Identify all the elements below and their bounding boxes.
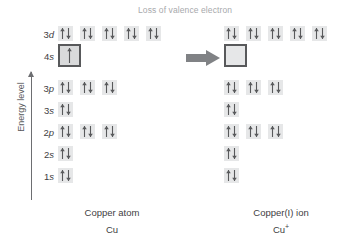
- row-label-subshell: p: [49, 127, 54, 138]
- orbital-set-left-2p: [58, 124, 117, 139]
- row-label-subshell: s: [49, 171, 54, 182]
- orbital-box-left-3d-4: [124, 26, 139, 41]
- orbital-box-left-3p-1: [58, 80, 73, 95]
- row-label-subshell: p: [49, 83, 54, 94]
- orbital-set-left-3d: [58, 26, 161, 41]
- caption-left-name: Copper atom: [85, 207, 140, 218]
- row-label-3d: 3d: [34, 29, 54, 40]
- caption-left-formula: Cu: [52, 220, 172, 237]
- orbital-box-right-3d-5: [312, 26, 327, 41]
- orbital-box-right-2s-1: [224, 146, 239, 161]
- row-label-1s: 1s: [34, 171, 54, 182]
- orbital-set-right-4s: [224, 48, 247, 67]
- orbital-box-left-2s-1: [58, 146, 73, 161]
- orbital-set-left-2s: [58, 146, 73, 161]
- orbital-set-right-3d: [224, 26, 327, 41]
- orbital-set-left-1s: [58, 168, 73, 183]
- orbital-set-right-3p: [224, 80, 283, 95]
- caption-right-formula: Cu+: [218, 220, 344, 237]
- orbital-box-left-2p-1: [58, 124, 73, 139]
- orbital-box-right-2p-2: [246, 124, 261, 139]
- orbital-box-left-3d-2: [80, 26, 95, 41]
- caption-right-name: Copper(I) ion: [253, 207, 308, 218]
- orbital-box-left-2p-3: [102, 124, 117, 139]
- caption-left-symbol: Cu: [106, 224, 118, 235]
- row-label-subshell: s: [49, 105, 54, 116]
- orbital-box-right-2p-3: [268, 124, 283, 139]
- orbital-box-left-3p-2: [80, 80, 95, 95]
- orbital-box-right-4s-1: [224, 44, 247, 67]
- row-label-4s: 4s: [34, 51, 54, 62]
- orbital-box-right-3p-3: [268, 80, 283, 95]
- row-label-subshell: s: [49, 149, 54, 160]
- caption-right-symbol: Cu: [273, 224, 285, 235]
- orbital-box-right-3d-3: [268, 26, 283, 41]
- orbital-box-right-1s-1: [224, 168, 239, 183]
- orbital-box-right-3d-4: [290, 26, 305, 41]
- row-label-3s: 3s: [34, 105, 54, 116]
- orbital-set-right-2p: [224, 124, 283, 139]
- orbital-set-left-4s: [58, 48, 81, 67]
- orbital-diagram-figure: Loss of valence electron Energy level 3d…: [0, 0, 361, 245]
- row-label-subshell: s: [49, 51, 54, 62]
- energy-axis-arrow-icon: [31, 72, 32, 200]
- orbital-box-right-3s-1: [224, 102, 239, 117]
- orbital-box-left-3s-1: [58, 102, 73, 117]
- orbital-set-right-2s: [224, 146, 239, 161]
- orbital-box-right-3d-2: [246, 26, 261, 41]
- row-label-3p: 3p: [34, 83, 54, 94]
- row-label-2p: 2p: [34, 127, 54, 138]
- figure-title: Loss of valence electron: [138, 5, 318, 15]
- orbital-set-right-1s: [224, 168, 239, 183]
- caption-copper-atom: Copper atom Cu: [52, 206, 172, 237]
- row-label-2s: 2s: [34, 149, 54, 160]
- orbital-box-left-3d-5: [146, 26, 161, 41]
- energy-axis-label: Energy level: [16, 59, 26, 155]
- orbital-set-left-3s: [58, 102, 73, 117]
- caption-right-charge: +: [285, 223, 289, 230]
- orbital-box-left-4s-1: [58, 44, 81, 67]
- orbital-box-right-2p-1: [224, 124, 239, 139]
- caption-copper-i-ion: Copper(I) ion Cu+: [218, 206, 344, 237]
- orbital-box-left-3d-1: [58, 26, 73, 41]
- orbital-box-right-3p-2: [246, 80, 261, 95]
- orbital-box-right-3d-1: [224, 26, 239, 41]
- orbital-box-left-3p-3: [102, 80, 117, 95]
- orbital-box-right-3p-1: [224, 80, 239, 95]
- orbital-box-left-1s-1: [58, 168, 73, 183]
- orbital-set-right-3s: [224, 102, 239, 117]
- right-arrow-icon: [186, 50, 220, 66]
- orbital-box-left-3d-3: [102, 26, 117, 41]
- row-label-subshell: d: [49, 29, 54, 40]
- orbital-set-left-3p: [58, 80, 117, 95]
- orbital-box-left-2p-2: [80, 124, 95, 139]
